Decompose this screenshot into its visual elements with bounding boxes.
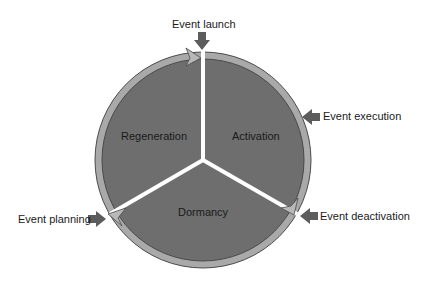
event-label-launch: Event launch bbox=[172, 18, 236, 30]
event-label-planning: Event planning bbox=[18, 213, 91, 225]
event-label-execution: Event execution bbox=[323, 110, 401, 122]
segment-label-dormancy: Dormancy bbox=[178, 206, 228, 218]
event-label-deactivation: Event deactivation bbox=[320, 210, 410, 222]
event-launch-arrow bbox=[194, 32, 210, 50]
event-deactivation-arrow bbox=[300, 208, 318, 224]
segment-label-regeneration: Regeneration bbox=[121, 130, 187, 142]
segment-label-activation: Activation bbox=[232, 130, 280, 142]
cycle-diagram bbox=[0, 0, 435, 287]
